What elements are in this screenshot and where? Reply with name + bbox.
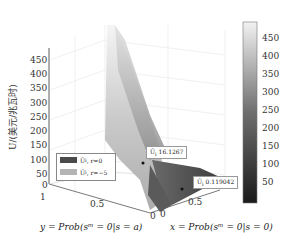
annotation-point-2: [181, 188, 184, 191]
colorbar: [243, 22, 257, 203]
x-tick-0: 0: [160, 210, 166, 219]
legend-item-r0: Ũi, r=0: [57, 154, 115, 166]
y-axis-title: y = Prob(sᵐ = 0|s = a): [40, 222, 142, 232]
y-tick-1: 1: [40, 193, 46, 202]
legend-swatch-light: [60, 169, 77, 175]
y-tick-0.5: 0.5: [90, 200, 104, 209]
annotation-1: Ũi 16.1267: [146, 146, 187, 159]
chart-canvas: [0, 0, 286, 247]
x-tick-0.5: 0.5: [188, 198, 202, 207]
annotation-2: Ũi 0.119042: [193, 176, 238, 189]
annotation-point-1: [142, 162, 145, 165]
legend-item-r-5: Ũi, r=−5: [57, 166, 115, 178]
z-axis-label: U/(美元/兆瓦时): [6, 84, 19, 150]
legend: Ũi, r=0 Ũi, r=−5: [56, 153, 116, 181]
legend-swatch-dark: [60, 157, 77, 163]
y-tick-0: 0: [150, 212, 156, 221]
x-axis-title: x = Prob(sᵐ = 0|s = 0): [170, 222, 273, 232]
